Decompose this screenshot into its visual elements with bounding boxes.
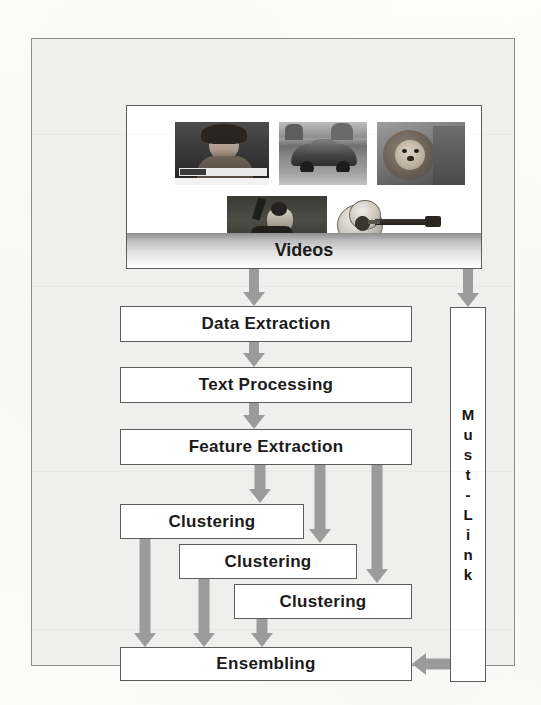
arrow-clustering-2-to-ensembling: [193, 579, 215, 647]
thumb-car: [279, 122, 367, 185]
stage-box-data-extraction[interactable]: Data Extraction: [120, 306, 412, 342]
arrow-clustering-1-to-ensembling: [134, 539, 156, 647]
videos-label: Videos: [126, 233, 482, 269]
arrow-videos-to-data-extraction: [243, 269, 265, 306]
stage-label-feature-extraction: Feature Extraction: [189, 437, 344, 457]
clustering-label-3: Clustering: [279, 592, 366, 612]
arrow-text-processing-to-feature-extraction: [243, 403, 265, 429]
ensembling-box[interactable]: Ensembling: [120, 647, 412, 681]
clustering-label-2: Clustering: [224, 552, 311, 572]
stage-label-text-processing: Text Processing: [199, 375, 334, 395]
arrow-clustering-3-to-ensembling: [251, 619, 273, 647]
must-link-char-2: s: [464, 447, 472, 462]
arrow-feature-extraction-to-clustering-1: [249, 465, 271, 503]
must-link-char-0: M: [462, 407, 475, 422]
clustering-box-2[interactable]: Clustering: [179, 544, 357, 579]
must-link-char-4: -: [466, 487, 471, 502]
arrow-must-link-to-ensembling: [412, 652, 451, 676]
clustering-box-1[interactable]: Clustering: [120, 504, 304, 539]
arrow-feature-extraction-to-clustering-3: [366, 465, 388, 583]
figure-frame: Videos Data Extraction Text Processing: [31, 38, 515, 666]
stage-label-data-extraction: Data Extraction: [201, 314, 330, 334]
clustering-label-1: Clustering: [168, 512, 255, 532]
must-link-char-8: k: [464, 567, 472, 582]
ensembling-label: Ensembling: [216, 654, 315, 674]
stage-box-feature-extraction[interactable]: Feature Extraction: [120, 429, 412, 465]
clustering-box-3[interactable]: Clustering: [234, 584, 412, 619]
arrow-feature-extraction-to-clustering-2: [309, 465, 331, 543]
figure-page: Videos Data Extraction Text Processing: [0, 0, 541, 705]
arrow-videos-to-must-link: [457, 269, 479, 307]
must-link-char-6: i: [466, 527, 470, 542]
must-link-char-1: u: [463, 427, 472, 442]
must-link-box[interactable]: M u s t - L i n k: [450, 307, 486, 682]
arrow-data-extraction-to-text-processing: [243, 342, 265, 367]
must-link-char-3: t: [466, 467, 471, 482]
must-link-char-7: n: [463, 547, 472, 562]
thumb-news-woman: [175, 122, 269, 185]
must-link-char-5: L: [463, 507, 472, 522]
stage-box-text-processing[interactable]: Text Processing: [120, 367, 412, 403]
thumb-lion: [377, 122, 465, 185]
